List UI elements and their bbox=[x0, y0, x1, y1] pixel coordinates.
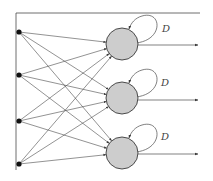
connection-arrow bbox=[19, 107, 109, 164]
connection-arrow bbox=[19, 155, 106, 164]
input-connections bbox=[19, 32, 112, 164]
neuron-node bbox=[106, 137, 138, 169]
delay-label: D bbox=[160, 131, 169, 142]
connection-arrow bbox=[19, 121, 107, 148]
neuron-node bbox=[106, 28, 138, 60]
delay-labels: DDD bbox=[160, 23, 170, 142]
input-node-dot bbox=[16, 29, 21, 34]
neural-network-diagram: DDD bbox=[0, 0, 213, 181]
delay-label: D bbox=[161, 23, 170, 34]
connection-arrow bbox=[19, 56, 112, 164]
input-node-dot bbox=[16, 118, 21, 123]
neuron-layer bbox=[106, 28, 138, 169]
delay-label: D bbox=[160, 77, 169, 88]
neuron-node bbox=[106, 82, 138, 114]
input-node-dot bbox=[16, 161, 21, 166]
input-layer bbox=[16, 29, 21, 166]
connection-arrow bbox=[19, 49, 107, 75]
input-node-dot bbox=[16, 72, 21, 77]
